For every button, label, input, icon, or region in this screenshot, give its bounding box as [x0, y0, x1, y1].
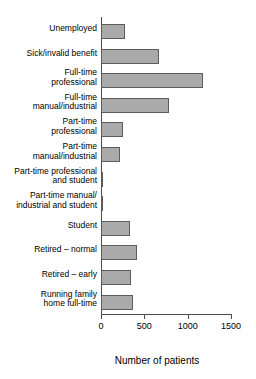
- bar-category-label: Unemployed: [0, 24, 97, 34]
- x-axis-title: Number of patients: [0, 355, 256, 367]
- bar-category-label: Student: [0, 221, 97, 231]
- bar-category-label: Part-time professional and student: [0, 167, 97, 186]
- bar: [101, 172, 103, 187]
- plot-area: UnemployedSick/invalid benefitFull-time …: [0, 0, 256, 379]
- x-axis-tick-label: 0: [81, 321, 121, 332]
- bar-category-label: Sick/invalid benefit: [0, 49, 97, 59]
- bar: [101, 73, 203, 88]
- bar-category-label: Retired – normal: [0, 245, 97, 255]
- bar: [101, 270, 131, 285]
- bar-row: Part-time manual/ industrial and student: [0, 191, 256, 216]
- bar: [101, 245, 137, 260]
- bar-row: Part-time professional and student: [0, 167, 256, 192]
- bar: [101, 295, 133, 310]
- bar-row: Running family home full-time: [0, 290, 256, 315]
- bar-category-label: Part-time professional: [0, 117, 97, 136]
- x-axis-tick-mark: [101, 315, 102, 319]
- x-axis-tick-label: 1000: [168, 321, 208, 332]
- bar: [101, 98, 169, 113]
- bar-category-label: Full-time professional: [0, 68, 97, 87]
- bar-category-label: Part-time manual/industrial: [0, 142, 97, 161]
- bar-row: Part-time professional: [0, 117, 256, 142]
- bar-row: Student: [0, 216, 256, 241]
- bar-row: Sick/invalid benefit: [0, 44, 256, 69]
- x-axis-tick-label: 1500: [211, 321, 251, 332]
- bar: [101, 147, 120, 162]
- bar: [101, 122, 123, 137]
- bar-category-label: Running family home full-time: [0, 290, 97, 309]
- x-axis-tick-mark: [188, 315, 189, 319]
- bar-category-label: Retired – early: [0, 270, 97, 280]
- bar-row: Retired – normal: [0, 240, 256, 265]
- bar: [101, 49, 159, 64]
- bar: [101, 221, 130, 236]
- bar-row: Full-time manual/industrial: [0, 93, 256, 118]
- bar-chart-figure: UnemployedSick/invalid benefitFull-time …: [0, 0, 256, 379]
- bar-category-label: Part-time manual/ industrial and student: [0, 191, 97, 210]
- bar-category-label: Full-time manual/industrial: [0, 93, 97, 112]
- bar-row: Retired – early: [0, 265, 256, 290]
- bar-row: Part-time manual/industrial: [0, 142, 256, 167]
- bar-row: Full-time professional: [0, 68, 256, 93]
- x-axis-tick-label: 500: [124, 321, 164, 332]
- x-axis-tick-mark: [144, 315, 145, 319]
- x-axis-tick-mark: [231, 315, 232, 319]
- bar: [101, 24, 125, 39]
- bar: [101, 196, 103, 211]
- bar-row: Unemployed: [0, 19, 256, 44]
